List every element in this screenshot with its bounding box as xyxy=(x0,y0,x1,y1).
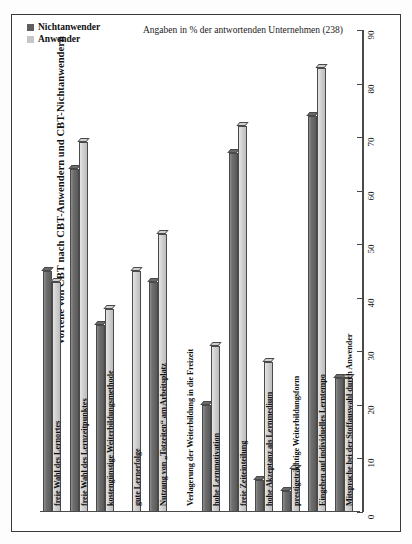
axis-tick-label: 80 xyxy=(366,84,376,93)
bar-group: hohe Lernmotivation xyxy=(199,30,226,512)
axis-tick-label: 50 xyxy=(366,245,376,254)
axis-tick-label: 60 xyxy=(366,191,376,200)
axis-tick xyxy=(357,84,363,85)
axis-tick xyxy=(357,191,363,192)
category-label: Verlagerung der Weiterbildung in die Fre… xyxy=(186,349,195,506)
category-label: Eingehen auf individuelles Lerntempo xyxy=(318,374,327,506)
category-label: hohe Akzeptanz als Lernmedium xyxy=(265,392,274,506)
value-axis: 0102030405060708090 xyxy=(362,30,364,512)
category-label: prestigeträchtige Weiterbildungsform xyxy=(292,376,301,506)
axis-tick-label: 10 xyxy=(366,459,376,468)
axis-tick-label: 70 xyxy=(366,138,376,147)
bar-group: prestigeträchtige Weiterbildungsform xyxy=(279,30,306,512)
axis-tick xyxy=(357,137,363,138)
category-label: Nutzung von „Totzeiten“ am Arbeitsplatz xyxy=(159,363,168,506)
plot-area: freie Wahl des Lernortesfreie Wahl des L… xyxy=(40,30,358,512)
bar-group: freie Wahl des Lernortes xyxy=(40,30,67,512)
axis-tick-label: 20 xyxy=(366,405,376,414)
category-label: gute Lernerfolge xyxy=(133,448,142,506)
baseline-axis xyxy=(40,511,360,512)
bar-group: gute Lernerfolge xyxy=(120,30,147,512)
axis-tick-label: 30 xyxy=(366,352,376,361)
bar-group: Verlagerung der Weiterbildung in die Fre… xyxy=(173,30,200,512)
axis-tick-label: 0 xyxy=(366,515,376,520)
axis-tick xyxy=(357,458,363,459)
category-label: kostengünstige Weiterbildungsmethode xyxy=(106,370,115,506)
axis-tick xyxy=(357,298,363,299)
axis-tick xyxy=(357,30,363,31)
bar-group: Eingehen auf individuelles Lerntempo xyxy=(305,30,332,512)
axis-tick xyxy=(357,405,363,406)
axis-tick xyxy=(357,512,363,513)
axis-tick xyxy=(357,351,363,352)
category-label: freie Zeiteinteilung xyxy=(239,441,248,506)
axis-tick-label: 90 xyxy=(366,31,376,40)
category-label: freie Wahl des Lernortes xyxy=(53,421,62,506)
bar-group: hohe Akzeptanz als Lernmedium xyxy=(252,30,279,512)
bar-group: freie Wahl des Lernzeitpunktes xyxy=(67,30,94,512)
legend-swatch-icon-anwender xyxy=(27,36,34,43)
category-label: hohe Lernmotivation xyxy=(212,433,221,506)
bar-group: kostengünstige Weiterbildungsmethode xyxy=(93,30,120,512)
bar-group: Nutzung von „Totzeiten“ am Arbeitsplatz xyxy=(146,30,173,512)
chart-page: Vorteile von CBT nach CBT-Anwendern und … xyxy=(0,0,412,544)
axis-tick xyxy=(357,244,363,245)
category-label: Mitsprache bei der Stoffauswahl durch An… xyxy=(345,334,354,506)
category-label: freie Wahl des Lernzeitpunktes xyxy=(80,398,89,506)
bar-group: Mitsprache bei der Stoffauswahl durch An… xyxy=(332,30,359,512)
legend-swatch-icon-nichtanwender xyxy=(27,24,34,31)
axis-tick-label: 40 xyxy=(366,298,376,307)
bar-group: freie Zeiteinteilung xyxy=(226,30,253,512)
